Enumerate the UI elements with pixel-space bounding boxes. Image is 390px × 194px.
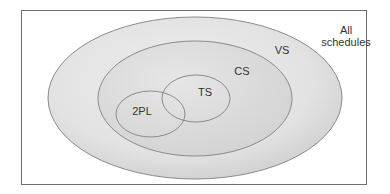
vs-label: VS [272,44,292,56]
all-schedules-label-line2: schedules [318,36,374,48]
cs-label: CS [232,65,252,77]
ts-label: TS [195,86,215,98]
all-schedules-label-line1: All [318,24,374,36]
all-schedules-label: All schedules [318,24,374,48]
cs-ellipse [98,41,292,156]
2pl-label: 2PL [130,105,154,117]
